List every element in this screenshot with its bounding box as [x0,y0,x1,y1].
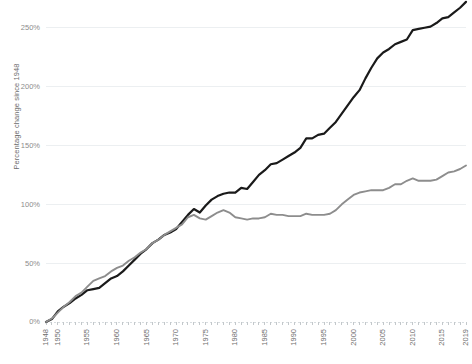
x-tick-label: 2019 [461,329,470,346]
x-tick-label: 2015 [437,329,446,346]
x-tick-label: 1980 [230,329,239,346]
productivity-pay-gap-chart: Percentage change since 1948 0%50%100%15… [0,0,472,364]
x-tick-label: 1948 [41,329,50,346]
y-tick-label: 200% [21,82,41,91]
x-tick-label: 1975 [201,329,210,346]
x-tick-label: 2000 [349,329,358,346]
x-tick-label: 1955 [82,329,91,346]
x-tick-label: 1960 [112,329,121,346]
y-tick-label: 100% [21,200,41,209]
y-tick-label: 50% [25,259,40,268]
x-tick-label: 1985 [260,329,269,346]
chart-plot-area: 0%50%100%150%200%250%1948195019551960196… [0,0,472,364]
x-tick-label: 2010 [408,329,417,346]
x-tick-label: 1995 [319,329,328,346]
x-tick-label: 1965 [142,329,151,346]
y-tick-label: 250% [21,23,41,32]
x-tick-label: 1990 [289,329,298,346]
y-tick-label: 150% [21,141,41,150]
x-tick-label: 1950 [53,329,62,346]
x-tick-label: 2005 [378,329,387,346]
series-line-compensation [46,165,466,322]
y-tick-label: 0% [29,317,40,326]
x-tick-label: 1970 [171,329,180,346]
